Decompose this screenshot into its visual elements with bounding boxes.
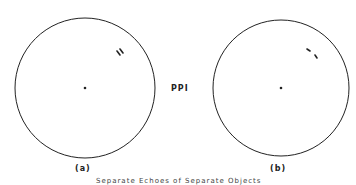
ppi-label: PPI xyxy=(171,84,189,93)
radar-origin-dot-b xyxy=(280,87,283,90)
echo-pair-a xyxy=(117,49,123,55)
echo-pair-b xyxy=(307,49,317,58)
figure-caption: Separate Echoes of Separate Objects xyxy=(96,177,261,185)
panel-label-a: (a) xyxy=(75,164,91,173)
ppi-scope-b xyxy=(213,20,349,156)
panel-label-b: (b) xyxy=(270,164,286,173)
ppi-scope-a xyxy=(15,18,155,158)
radar-origin-dot-a xyxy=(84,87,87,90)
